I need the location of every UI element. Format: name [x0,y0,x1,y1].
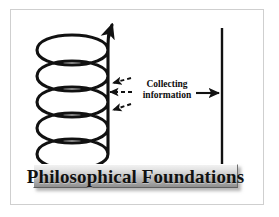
diagram-canvas: Collecting information Philosophical Fou… [0,0,279,217]
annotation-line-1: Collecting [135,79,199,90]
annotation-collecting-information: Collecting information [135,79,199,100]
label-text: Philosophical Foundations [27,167,244,186]
dashed-arrow-upper [113,78,131,83]
dashed-arrow-group [110,78,132,110]
spiral-coil-group [37,25,112,169]
spiral-arrow-tail [109,25,112,36]
label-box-philosophical-foundations: Philosophical Foundations [33,164,238,188]
spiral-coil-path [37,33,109,169]
dashed-arrow-lower [113,104,131,110]
annotation-line-2: information [135,90,199,101]
